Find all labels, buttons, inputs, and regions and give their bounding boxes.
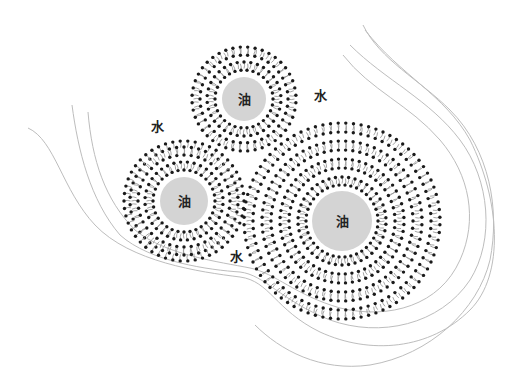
surfactant-head: [296, 223, 299, 226]
surfactant-head: [410, 180, 413, 183]
surfactant-head: [271, 103, 274, 106]
surfactant-head: [239, 126, 242, 129]
surfactant-head: [130, 170, 133, 173]
surfactant-head: [302, 183, 305, 186]
surfactant-head: [299, 130, 302, 133]
surfactant-head: [374, 260, 377, 263]
surfactant-head: [209, 81, 212, 84]
surfactant-head: [379, 183, 382, 186]
surfactant-head: [405, 281, 408, 284]
surfactant-head: [307, 179, 310, 182]
surfactant-head: [186, 139, 189, 142]
surfactant-head: [236, 196, 239, 199]
surfactant-head: [221, 153, 224, 156]
surfactant-head: [211, 56, 214, 59]
surfactant-head: [398, 196, 401, 199]
surfactant-head: [239, 69, 242, 72]
surfactant-head: [366, 295, 369, 298]
surfactant-head: [350, 271, 353, 274]
surfactant-head: [365, 286, 368, 289]
surfactant-head: [351, 299, 354, 302]
surfactant-head: [236, 134, 239, 137]
surfactant-head: [131, 217, 134, 220]
surfactant-head: [359, 132, 362, 135]
surfactant-head: [376, 270, 379, 273]
surfactant-head: [302, 256, 305, 259]
surfactant-head: [401, 209, 404, 212]
surfactant-head: [299, 173, 302, 176]
surfactant-head: [314, 314, 317, 317]
surfactant-head: [374, 179, 377, 182]
surfactant-head: [334, 176, 337, 179]
surfactant-head: [344, 130, 347, 133]
surfactant-head: [410, 258, 413, 261]
surfactant-head: [357, 270, 360, 273]
surfactant-head: [253, 148, 256, 151]
surfactant-head: [330, 167, 333, 170]
surfactant-head: [190, 245, 193, 248]
surfactant-head: [214, 91, 217, 94]
surfactant-head: [170, 228, 173, 231]
surfactant-head: [312, 175, 315, 178]
surfactant-head: [360, 189, 363, 192]
surfactant-head: [134, 164, 137, 167]
surfactant-head: [300, 299, 303, 302]
surfactant-head: [152, 193, 155, 196]
surfactant-head: [278, 216, 281, 219]
surfactant-head: [226, 240, 229, 243]
surfactant-head: [366, 304, 369, 307]
oil-label: 油: [178, 194, 191, 209]
surfactant-head: [267, 143, 270, 146]
surfactant-head: [352, 131, 355, 134]
surfactant-head: [211, 211, 214, 214]
surfactant-head: [310, 252, 313, 255]
surfactant-head: [412, 286, 415, 289]
surfactant-head: [392, 206, 395, 209]
surfactant-head: [315, 295, 318, 298]
surfactant-head: [274, 56, 277, 59]
surfactant-head: [179, 259, 182, 262]
surfactant-head: [366, 134, 369, 137]
surfactant-head: [399, 260, 402, 263]
surfactant-head: [291, 239, 294, 242]
surfactant-head: [248, 253, 251, 256]
surfactant-head: [209, 114, 212, 117]
water-label: 水: [151, 119, 165, 134]
surfactant-head: [372, 202, 375, 205]
surfactant-head: [353, 177, 356, 180]
surfactant-head: [154, 211, 157, 214]
surfactant-head: [268, 153, 271, 156]
surfactant-head: [289, 206, 292, 209]
surfactant-head: [280, 142, 283, 145]
surfactant-head: [397, 276, 400, 279]
surfactant-head: [357, 169, 360, 172]
surfactant-head: [272, 130, 275, 133]
surfactant-head: [160, 167, 163, 170]
surfactant-head: [344, 148, 347, 151]
surfactant-head: [242, 60, 245, 63]
surfactant-head: [386, 285, 389, 288]
surfactant-head: [279, 134, 282, 137]
surfactant-head: [290, 183, 293, 186]
surfactant-head: [206, 101, 209, 104]
surfactant-head: [143, 196, 146, 199]
surfactant-head: [337, 290, 340, 293]
surfactant-head: [322, 141, 325, 144]
surfactant-head: [344, 139, 347, 142]
surfactant-head: [365, 153, 368, 156]
surfactant-head: [309, 236, 312, 239]
surfactant-head: [393, 213, 396, 216]
surfactant-head: [282, 179, 285, 182]
surfactant-head: [279, 230, 282, 233]
surfactant-head: [330, 149, 333, 152]
surfactant-head: [391, 158, 394, 161]
surfactant-head: [210, 227, 213, 230]
surfactant-head: [232, 140, 235, 143]
surfactant-head: [242, 216, 245, 219]
surfactant-head: [284, 129, 287, 132]
surfactant-head: [402, 168, 405, 171]
surfactant-head: [337, 281, 340, 284]
surfactant-head: [294, 261, 297, 264]
surfactant-head: [329, 317, 332, 320]
surfactant-head: [397, 163, 400, 166]
